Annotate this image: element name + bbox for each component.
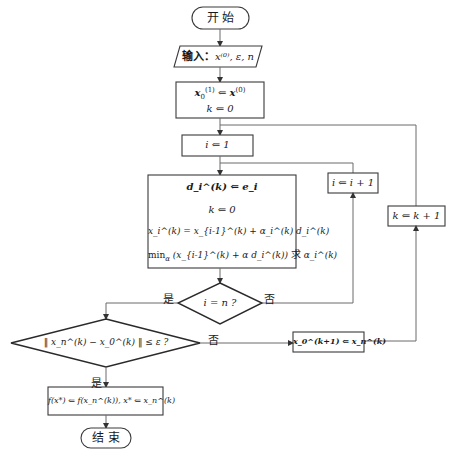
- update-x0-label: x_0^(k+1) ⇐ x_n^(k): [293, 337, 364, 345]
- decision-conv-no-label: 否: [208, 331, 219, 347]
- input-label: 输入：x⁽⁰⁾, ε, n: [176, 51, 260, 62]
- body-line1: d_i^(k) ⇐ e_i: [148, 182, 296, 192]
- decision-i-yes-label: 是: [163, 290, 174, 306]
- init-line2: k ⇐ 0: [176, 104, 264, 114]
- start-label: 开 始: [192, 12, 249, 24]
- init-line1: x0(1) ⇐ x(0): [176, 88, 264, 98]
- decision-conv-label: ‖ x_n^(k) − x_0^(k) ‖ ≤ ε ?: [40, 338, 172, 347]
- decision-i-label: i = n ?: [188, 298, 252, 308]
- input-prefix: 输入：: [182, 50, 215, 63]
- set-i-label: i ⇐ 1: [182, 140, 253, 150]
- body-line2: k ⇐ 0: [148, 205, 296, 215]
- end-label: 结 束: [81, 432, 131, 444]
- increment-i-label: i ⇐ i + 1: [328, 178, 378, 188]
- decision-conv-yes-label: 是: [91, 374, 102, 390]
- result-label: f(x*) ⇐ f(x_n^(k)), x* ⇐ x_n^(k): [48, 397, 163, 405]
- increment-k-label: k ⇐ k + 1: [388, 211, 445, 221]
- body-line4: minα (x_{i-1}^(k) + α d_i^(k)) 求 α_i^(k): [148, 250, 296, 260]
- input-vars: x⁽⁰⁾, ε, n: [215, 51, 254, 62]
- body-line3: x_i^(k) = x_{i-1}^(k) + α_i^(k) d_i^(k): [148, 227, 296, 236]
- decision-i-no-label: 否: [264, 290, 275, 306]
